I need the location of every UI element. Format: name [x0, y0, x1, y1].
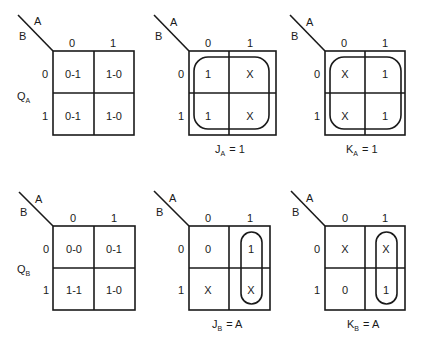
- caption: JA= 1: [215, 143, 245, 157]
- cell-r0-c0: X: [341, 68, 349, 80]
- row-var-label: B: [156, 206, 163, 218]
- caption: KA= 1: [346, 143, 378, 157]
- cell-r0-c1: X: [246, 68, 254, 80]
- cell-r0-c1: 1: [382, 68, 388, 80]
- column-header-1: 1: [110, 37, 116, 49]
- row-header-0: 0: [178, 243, 184, 255]
- row-var-label: B: [155, 30, 162, 42]
- side-label: QA: [17, 90, 31, 104]
- column-var-label: A: [170, 16, 178, 28]
- row-var-label: B: [20, 206, 27, 218]
- cell-r0-c0: 0-1: [65, 68, 81, 80]
- map-kb: A B 0 1 0 1 X X 0 1 KB= A: [291, 191, 405, 332]
- cell-r0-c0: 0-0: [66, 243, 82, 255]
- row-header-1: 1: [314, 110, 320, 122]
- column-header-1: 1: [247, 212, 253, 224]
- row-header-1: 1: [42, 110, 48, 122]
- cell-r0-c1: 1-0: [106, 68, 122, 80]
- cell-r0-c1: 1: [248, 243, 254, 255]
- map-ja: A B 0 1 0 1 1 X 1 X JA= 1: [154, 15, 276, 157]
- map-qb: A B 0 1 0 1 QB 0-0 0-1 1-1 1-0: [17, 192, 135, 310]
- cell-r0-c0: X: [341, 243, 349, 255]
- column-header-1: 1: [382, 37, 388, 49]
- column-header-0: 0: [341, 37, 347, 49]
- caption: JB= A: [212, 318, 243, 332]
- cell-r1-c1: 1-0: [106, 110, 122, 122]
- column-header-0: 0: [70, 212, 76, 224]
- map-qa: A B 0 1 0 1 QA 0-1 1-0 0-1 1-0: [17, 15, 134, 135]
- column-header-0: 0: [342, 212, 348, 224]
- cell-r1-c0: 1-1: [66, 284, 82, 296]
- cell-r0-c0: 1: [205, 68, 211, 80]
- cell-r1-c1: 1-0: [106, 284, 122, 296]
- row-header-1: 1: [178, 284, 184, 296]
- cell-r0-c1: 0-1: [106, 243, 122, 255]
- cell-r1-c0: 0-1: [65, 110, 81, 122]
- caption: KB= A: [347, 318, 380, 332]
- cell-r0-c0: 0: [205, 243, 211, 255]
- cell-r1-c1: 1: [382, 110, 388, 122]
- side-label: QB: [17, 263, 31, 277]
- column-var-label: A: [35, 193, 43, 205]
- map-ka: A B 0 1 0 1 X 1 X 1 KA= 1: [290, 15, 405, 157]
- row-header-1: 1: [43, 284, 49, 296]
- cell-r1-c1: 1: [383, 284, 389, 296]
- cell-r1-c0: 0: [342, 284, 348, 296]
- row-header-0: 0: [314, 68, 320, 80]
- column-header-0: 0: [69, 37, 75, 49]
- column-header-1: 1: [111, 212, 117, 224]
- column-header-1: 1: [382, 212, 388, 224]
- cell-r1-c1: X: [247, 284, 255, 296]
- cell-r1-c1: X: [246, 110, 254, 122]
- map-jb: A B 0 1 0 1 0 1 X X JB= A: [154, 191, 270, 332]
- row-header-0: 0: [178, 68, 184, 80]
- column-var-label: A: [34, 15, 42, 27]
- column-header-0: 0: [205, 37, 211, 49]
- row-header-0: 0: [43, 243, 49, 255]
- karnaugh-maps-figure: A B 0 1 0 1 QA 0-1 1-0 0-1 1-0 A B 0 1 0…: [0, 0, 421, 345]
- column-header-0: 0: [205, 212, 211, 224]
- cell-r1-c0: X: [341, 110, 349, 122]
- row-var-label: B: [292, 206, 299, 218]
- row-header-1: 1: [314, 284, 320, 296]
- row-var-label: B: [19, 30, 26, 42]
- row-var-label: B: [291, 30, 298, 42]
- cell-r0-c1: X: [382, 243, 390, 255]
- column-var-label: A: [306, 192, 314, 204]
- column-header-1: 1: [247, 37, 253, 49]
- column-var-label: A: [169, 192, 177, 204]
- row-header-1: 1: [178, 110, 184, 122]
- cell-r1-c0: 1: [205, 110, 211, 122]
- row-header-0: 0: [42, 68, 48, 80]
- row-header-0: 0: [314, 243, 320, 255]
- cell-r1-c0: X: [204, 284, 212, 296]
- column-var-label: A: [306, 16, 314, 28]
